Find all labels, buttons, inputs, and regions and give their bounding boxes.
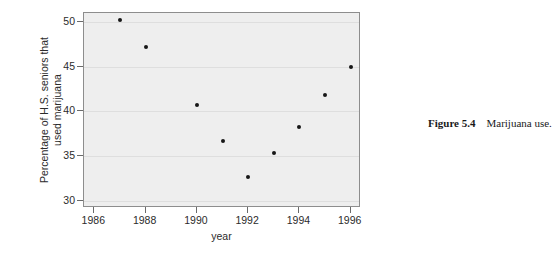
data-point — [323, 93, 327, 97]
figure-marijuana-use: Percentage of H.S. seniors that used mar… — [0, 0, 400, 256]
x-axis-tick — [145, 207, 146, 213]
gridline — [84, 111, 359, 112]
plot-inner — [84, 13, 359, 206]
y-axis-tick-label: 50 — [35, 15, 75, 27]
y-axis-tick-label: 40 — [35, 104, 75, 116]
gridline — [84, 67, 359, 68]
x-axis-tick — [298, 207, 299, 213]
data-point — [221, 139, 225, 143]
data-point — [246, 175, 250, 179]
gridline — [84, 22, 359, 23]
y-axis-tick-label: 45 — [35, 60, 75, 72]
gridline — [84, 201, 359, 202]
data-point — [297, 125, 301, 129]
figure-caption-label: Figure 5.4 — [428, 117, 475, 129]
x-axis-tick — [350, 207, 351, 213]
y-axis-tick-label: 30 — [35, 194, 75, 206]
plot-area — [83, 12, 360, 207]
x-axis-tick — [93, 207, 94, 213]
x-axis-tick — [247, 207, 248, 213]
x-axis-title: year — [83, 230, 360, 242]
y-axis-tick-label: 35 — [35, 149, 75, 161]
data-point — [144, 45, 148, 49]
data-point — [272, 151, 276, 155]
x-axis-tick — [196, 207, 197, 213]
data-point — [195, 103, 199, 107]
figure-caption-text: Marijuana use. — [486, 117, 551, 129]
data-point — [349, 65, 353, 69]
gridline — [84, 156, 359, 157]
figure-caption: Figure 5.4Marijuana use. — [428, 117, 552, 129]
x-axis-tick-label: 1996 — [320, 214, 380, 226]
